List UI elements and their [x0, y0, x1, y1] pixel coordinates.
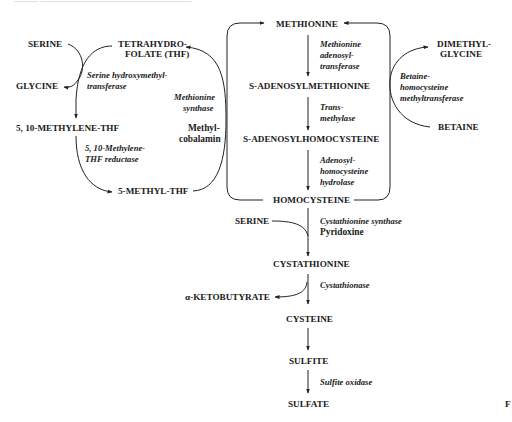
metabolite-serine-left: SERINE	[28, 39, 62, 49]
metabolite-thf-line2: FOLATE (THF)	[125, 49, 189, 59]
page-header: ——— ———————————————————	[13, 0, 193, 5]
cofactor-methylcobalamin-line2: cobalamin	[179, 134, 221, 144]
metabolite-cysteine: CYSTEINE	[286, 314, 333, 324]
enzyme-cbs: Cystathionine synthase	[320, 216, 402, 226]
enzyme-mt-line2: methylase	[320, 113, 356, 123]
metabolite-ketobutyrate: α-KETOBUTYRATE	[185, 292, 270, 302]
metabolite-sulfate: SULFATE	[288, 399, 329, 409]
enzyme-mt-line1: Trans-	[320, 102, 344, 112]
enzyme-ms-line1: Methionine	[173, 92, 215, 102]
enzyme-shmt-line1: Serine hydroxymethyl-	[87, 70, 168, 80]
enzyme-mat-line2: adenosyl-	[320, 50, 354, 60]
arrow-methyl-thf-to-thf	[186, 47, 226, 191]
metabolite-serine-mid: SERINE	[235, 216, 269, 226]
enzyme-cgl: Cystathionase	[320, 280, 370, 290]
enzyme-shmt-line2: transferase	[87, 81, 127, 91]
enzyme-mthfr-line1: 5, 10-Methylene-	[85, 143, 145, 153]
arrow-homocysteine-to-methionine-left	[227, 23, 264, 200]
enzyme-ms-line2: synthase	[182, 103, 214, 113]
metabolite-sah: S-ADENOSYLHOMOCYSTEINE	[243, 134, 379, 144]
metabolite-thf-line1: TETRAHYDRO-	[118, 39, 187, 49]
cofactor-pyridoxine: Pyridoxine	[320, 227, 364, 237]
metabolite-betaine: BETAINE	[438, 122, 479, 132]
enzyme-sulfite-oxidase: Sulfite oxidase	[320, 377, 372, 387]
cofactor-methylcobalamin-line1: Methyl-	[188, 123, 220, 133]
enzyme-sahh-line1: Adenosyl-	[319, 155, 355, 165]
corner-label: F	[505, 399, 511, 409]
enzyme-mat-line1: Methionine	[319, 39, 361, 49]
arrow-serine-join	[272, 221, 308, 236]
metabolite-homocysteine: HOMOCYSTEINE	[273, 195, 350, 205]
metabolite-dimethylglycine-line2: GLYCINE	[440, 49, 482, 59]
enzyme-mat-line3: transferase	[320, 61, 360, 71]
enzyme-bhmt-line3: methyltransferase	[400, 93, 464, 103]
metabolite-sam: S-ADENOSYLMETHIONINE	[249, 81, 370, 91]
metabolite-sulfite: SULFITE	[289, 356, 328, 366]
metabolite-glycine: GLYCINE	[16, 81, 58, 91]
arrow-serine-to-glycine	[64, 44, 83, 87]
metabolite-methyl-thf: 5-METHYL-THF	[118, 186, 189, 196]
enzyme-bhmt-line1: Betaine-	[399, 71, 430, 81]
metabolite-cystathionine: CYSTATHIONINE	[273, 259, 350, 269]
metabolite-methylene-thf: 5, 10-METHYLENE-THF	[16, 123, 119, 133]
enzyme-sahh-line3: hydrolase	[320, 177, 355, 187]
metabolite-methionine: METHIONINE	[276, 19, 338, 29]
methionine-metabolism-diagram: ——— ——————————————————— SERINE TETRAHYDR…	[0, 0, 512, 422]
enzyme-bhmt-line2: homocysteine	[400, 82, 448, 92]
enzyme-mthfr-line2: THF reductase	[85, 154, 139, 164]
metabolite-dimethylglycine-line1: DIMETHYL-	[437, 39, 491, 49]
arrow-to-ketobutyrate	[275, 282, 307, 297]
enzyme-sahh-line2: homocysteine	[320, 166, 368, 176]
